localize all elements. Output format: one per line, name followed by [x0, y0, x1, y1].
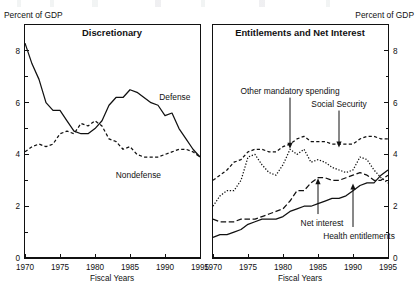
x-tick-label: 1980: [86, 263, 105, 272]
panel-discretionary: Percent of GDP Discretionary 02468 19701…: [4, 10, 210, 283]
x-tick-label: 1995: [379, 263, 398, 272]
annotation-label-social-security: Social Security: [311, 99, 367, 109]
annotation-label-net-interest: Net interest: [301, 218, 344, 228]
left-x-axis-title: Fiscal Years: [90, 274, 134, 283]
x-tick-label: 1985: [309, 263, 328, 272]
y-tick-label: 0: [393, 254, 398, 263]
x-tick-label: 1975: [239, 263, 258, 272]
series-label-defense: Defense: [159, 92, 191, 102]
x-tick-label: 1980: [274, 263, 293, 272]
y-tick-label: 2: [15, 202, 20, 211]
left-plot-frame: [25, 25, 201, 259]
x-tick-label: 1970: [16, 263, 35, 272]
left-unit-label: Percent of GDP: [4, 10, 63, 20]
y-tick-label: 4: [15, 150, 20, 159]
y-tick-label: 4: [393, 150, 398, 159]
chart-svg: Percent of GDP Discretionary 02468 19701…: [0, 0, 418, 296]
panel-entitlements: Percent of GDP Entitlements and Net Inte…: [204, 10, 415, 283]
right-x-axis-title: Fiscal Years: [278, 274, 322, 283]
figure-container: Percent of GDP Discretionary 02468 19701…: [0, 0, 418, 296]
annotation-label-other-mandatory-spending: Other mandatory spending: [240, 86, 340, 96]
right-unit-label: Percent of GDP: [355, 10, 414, 20]
annotation-label-health-entitlements: Health entitlements: [323, 231, 395, 241]
x-tick-label: 1990: [156, 263, 175, 272]
x-tick-label: 1975: [51, 263, 70, 272]
x-tick-label: 1970: [204, 263, 223, 272]
right-panel-title: Entitlements and Net Interest: [235, 27, 365, 38]
y-tick-label: 0: [15, 254, 20, 263]
left-panel-title: Discretionary: [82, 27, 143, 38]
series-label-nondefense: Nondefense: [116, 170, 162, 180]
y-tick-label: 8: [15, 47, 20, 56]
y-tick-label: 6: [393, 99, 398, 108]
x-tick-label: 1990: [344, 263, 363, 272]
y-tick-label: 2: [393, 202, 398, 211]
y-tick-label: 6: [15, 99, 20, 108]
x-tick-label: 1985: [121, 263, 140, 272]
y-tick-label: 8: [393, 47, 398, 56]
